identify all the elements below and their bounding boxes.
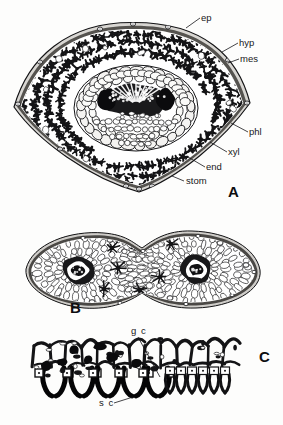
label-ep: ep — [201, 12, 212, 23]
label-gc: g c — [131, 325, 147, 336]
label-phl: phl — [249, 126, 262, 137]
figure-plate: ephypmesphlxylendstomg cs cABC — [0, 0, 283, 425]
label-sc: s c — [99, 397, 114, 408]
label-hyp: hyp — [239, 37, 254, 48]
panel-letter-a: A — [228, 183, 239, 200]
panel-letter-c: C — [259, 348, 270, 365]
label-end: end — [206, 161, 222, 172]
label-mes: mes — [240, 53, 258, 64]
label-stom: stom — [186, 175, 207, 186]
label-xyl: xyl — [228, 146, 240, 157]
panel-letter-b: B — [70, 299, 81, 316]
